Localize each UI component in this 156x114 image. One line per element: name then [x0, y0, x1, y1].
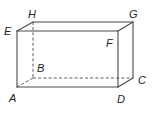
prism-svg: A B C D E F G H	[0, 0, 156, 114]
vertex-label-f: F	[106, 37, 114, 49]
hidden-edges	[17, 22, 133, 87]
vertex-label-b: B	[37, 62, 44, 74]
edge-eh	[17, 22, 33, 31]
vertex-label-h: H	[28, 8, 36, 20]
visible-edges	[17, 22, 133, 87]
rectangular-prism-diagram: A B C D E F G H	[0, 0, 156, 114]
vertex-label-a: A	[8, 92, 16, 104]
vertex-label-e: E	[4, 25, 12, 37]
vertex-label-d: D	[117, 93, 125, 105]
edge-cd	[118, 78, 133, 87]
vertex-label-g: G	[129, 8, 138, 20]
edge-gf	[118, 22, 133, 31]
vertex-label-c: C	[138, 74, 146, 86]
hidden-edge-ba	[17, 78, 33, 87]
